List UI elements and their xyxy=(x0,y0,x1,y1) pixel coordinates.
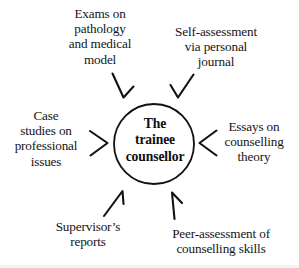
node-label-essays-on-counselling-theory: Essays on counselling theory xyxy=(209,119,299,165)
arrow-bottom-left xyxy=(104,191,124,216)
arrow-top-right xyxy=(171,75,194,98)
arrow-bottom-right xyxy=(172,193,182,220)
diagram-canvas: The trainee counsellor Exams on patholog… xyxy=(0,0,299,268)
node-label-supervisors-reports: Supervisor’s reports xyxy=(38,219,138,249)
node-label-peer-assessment-of-counselling-skills: Peer-assessment of counselling skills xyxy=(150,226,292,256)
node-label-case-studies-on-professional-issues: Case studies on professional issues xyxy=(2,108,90,169)
centre-node-label: The trainee counsellor xyxy=(114,116,196,165)
node-label-exams-on-pathology-and-medical-model: Exams on pathology and medical model xyxy=(50,6,150,67)
node-label-self-assessment-via-personal-journal: Self-assessment via personal journal xyxy=(162,24,270,70)
arrow-left xyxy=(90,131,108,156)
arrow-top-left xyxy=(113,74,134,98)
